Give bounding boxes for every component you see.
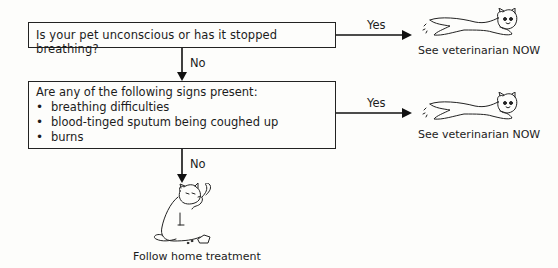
yes-label-1: Yes bbox=[367, 18, 386, 32]
signs-list: breathing difficulties blood-tinged sput… bbox=[32, 100, 278, 145]
no-label-2: No bbox=[190, 157, 206, 171]
sign-item: burns bbox=[32, 130, 278, 145]
outcome-caption-home: Follow home treatment bbox=[133, 250, 261, 263]
question-1-text: Is your pet unconscious or has it stoppe… bbox=[36, 28, 335, 56]
sign-item: blood-tinged sputum being coughed up bbox=[32, 115, 278, 130]
outcome-caption-yes-2: See veterinarian NOW bbox=[418, 128, 540, 141]
running-cat-icon bbox=[420, 8, 530, 42]
sign-item: breathing difficulties bbox=[32, 100, 278, 115]
question-box-unconscious: Is your pet unconscious or has it stoppe… bbox=[28, 22, 336, 48]
cat-with-bottle-icon bbox=[150, 183, 230, 247]
yes-label-2: Yes bbox=[367, 96, 386, 110]
question-2-text: Are any of the following signs present: bbox=[36, 85, 258, 99]
outcome-caption-yes-1: See veterinarian NOW bbox=[418, 44, 540, 57]
question-box-signs: Are any of the following signs present: … bbox=[28, 81, 336, 149]
no-label-1: No bbox=[190, 56, 206, 70]
running-cat-icon bbox=[420, 92, 530, 126]
